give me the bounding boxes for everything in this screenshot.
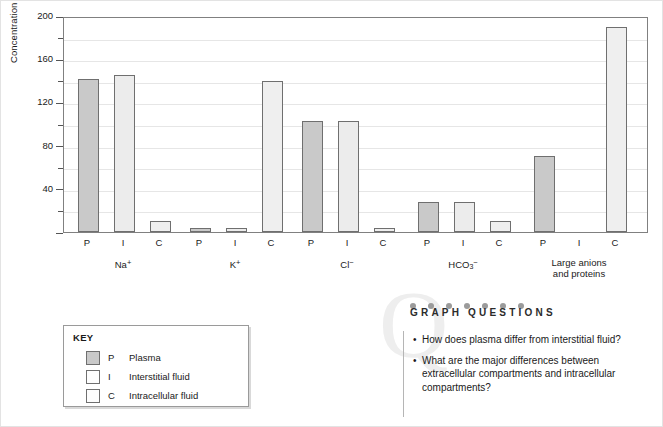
y-axis-tick-label: 40 bbox=[42, 183, 53, 194]
bar-hco-I bbox=[454, 202, 475, 232]
gridline bbox=[64, 83, 647, 84]
y-axis-tick-label: 200 bbox=[37, 10, 53, 21]
x-tick-label-P: P bbox=[75, 237, 99, 248]
bar-large-anions-and-proteins-C bbox=[606, 27, 627, 232]
x-tick-label-I: I bbox=[335, 237, 359, 248]
bar-hco-C bbox=[490, 221, 511, 232]
gridline bbox=[64, 40, 647, 41]
superscript: + bbox=[127, 258, 131, 267]
x-tick-label-C: C bbox=[371, 237, 395, 248]
bar-k-P bbox=[190, 228, 211, 232]
bar-cl-P bbox=[302, 121, 323, 232]
y-axis-tick-label: 80 bbox=[42, 140, 53, 151]
x-tick-label-C: C bbox=[147, 237, 171, 248]
figure-page: Concentration (mmol / L) 4080120160200 P… bbox=[0, 0, 663, 427]
y-axis-tick-label: 160 bbox=[37, 53, 53, 64]
legend-item-label: Intracellular fluid bbox=[129, 390, 198, 401]
bar-na-I bbox=[114, 75, 135, 232]
gridline bbox=[64, 61, 647, 62]
graph-question-item: What are the major differences between e… bbox=[413, 354, 639, 395]
legend-item-abbr: I bbox=[108, 371, 111, 382]
legend-key-box: KEY PPlasmaIInterstitial fluidCIntracell… bbox=[63, 325, 249, 407]
x-group-label-line: Large anions bbox=[519, 257, 639, 268]
tick-mark bbox=[56, 189, 63, 190]
bar-k-C bbox=[262, 81, 283, 232]
x-tick-label-C: C bbox=[603, 237, 627, 248]
superscript: + bbox=[236, 258, 240, 267]
plasma-swatch bbox=[86, 351, 100, 365]
x-tick-label-C: C bbox=[259, 237, 283, 248]
superscript: − bbox=[473, 258, 477, 267]
x-tick-label-C: C bbox=[487, 237, 511, 248]
x-group-label: Large anionsand proteins bbox=[519, 257, 639, 279]
bar-k-I bbox=[226, 228, 247, 232]
bar-cl-C bbox=[374, 228, 395, 232]
y-axis-tick-label: 120 bbox=[37, 96, 53, 107]
x-tick-label-I: I bbox=[451, 237, 475, 248]
x-tick-label-I: I bbox=[111, 237, 135, 248]
x-group-label-line: and proteins bbox=[519, 268, 639, 279]
legend-title: KEY bbox=[73, 332, 93, 343]
x-tick-label-P: P bbox=[415, 237, 439, 248]
graph-questions-panel: Q GRAPH QUESTIONS How does plasma differ… bbox=[379, 289, 659, 421]
bar-large-anions-and-proteins-P bbox=[534, 156, 555, 232]
bar-hco-P bbox=[418, 202, 439, 232]
superscript: − bbox=[349, 258, 353, 267]
x-tick-label-I: I bbox=[567, 237, 591, 248]
x-tick-label-P: P bbox=[299, 237, 323, 248]
legend-item-label: Interstitial fluid bbox=[129, 371, 190, 382]
x-tick-label-P: P bbox=[187, 237, 211, 248]
y-axis-ticks: 4080120160200 bbox=[1, 1, 63, 217]
vertical-rule bbox=[403, 331, 404, 417]
intracellular-swatch bbox=[86, 389, 100, 403]
bar-na-P bbox=[78, 79, 99, 232]
x-group-label: Na+ bbox=[63, 257, 183, 270]
x-tick-label-I: I bbox=[223, 237, 247, 248]
tick-mark bbox=[56, 103, 63, 104]
x-group-label: HCO3− bbox=[403, 257, 523, 272]
tick-mark bbox=[56, 233, 63, 234]
tick-mark bbox=[56, 146, 63, 147]
x-group-label: Cl− bbox=[287, 257, 407, 270]
graph-question-item: How does plasma differ from interstitial… bbox=[413, 333, 639, 347]
legend-item-abbr: C bbox=[108, 390, 115, 401]
tick-mark bbox=[56, 60, 63, 61]
graph-questions-list: How does plasma differ from interstitial… bbox=[413, 333, 639, 401]
gridline bbox=[64, 104, 647, 105]
legend-item-label: Plasma bbox=[129, 352, 161, 363]
plot-area bbox=[63, 17, 648, 233]
interstitial-swatch bbox=[86, 370, 100, 384]
bar-na-C bbox=[150, 221, 171, 232]
x-tick-label-P: P bbox=[531, 237, 555, 248]
x-group-label: K+ bbox=[175, 257, 295, 270]
legend-item-abbr: P bbox=[108, 352, 114, 363]
tick-mark bbox=[56, 17, 63, 18]
graph-questions-heading: GRAPH QUESTIONS bbox=[410, 307, 556, 318]
bar-cl-I bbox=[338, 121, 359, 232]
